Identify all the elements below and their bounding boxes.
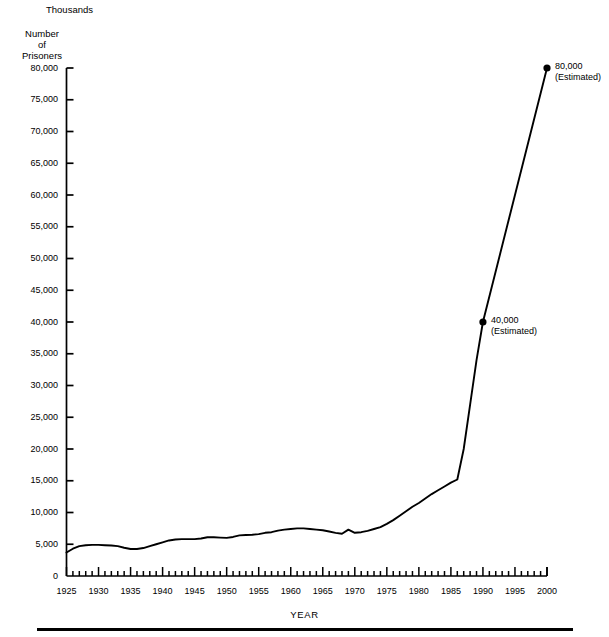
y-tick-label: 5,000 xyxy=(6,540,58,549)
y-axis-title-line-2: of xyxy=(16,39,68,50)
x-tick-label: 2000 xyxy=(527,587,567,596)
annotation-2000: 80,000(Estimated) xyxy=(555,61,601,83)
y-tick-label: 65,000 xyxy=(6,159,58,168)
y-axis-title-line-3: Prisoners xyxy=(16,50,68,61)
y-tick-label: 55,000 xyxy=(6,222,58,231)
data-point-marker-2000 xyxy=(543,64,550,71)
annotation-1990: 40,000(Estimated) xyxy=(491,315,537,337)
y-axis-title: Number of Prisoners xyxy=(16,28,68,61)
units-label: Thousands xyxy=(46,4,93,15)
y-tick-label: 20,000 xyxy=(6,445,58,454)
y-tick-label: 45,000 xyxy=(6,286,58,295)
y-tick-label: 75,000 xyxy=(6,95,58,104)
y-tick-label: 10,000 xyxy=(6,508,58,517)
y-tick-label: 60,000 xyxy=(6,191,58,200)
annotation-value: 80,000 xyxy=(555,61,601,72)
prisoners-line-chart: Thousands Number of Prisoners 05,00010,0… xyxy=(0,0,609,637)
annotation-qualifier: (Estimated) xyxy=(555,72,601,83)
footer-divider xyxy=(37,628,573,631)
y-tick-label: 0 xyxy=(6,572,58,581)
y-tick-label: 80,000 xyxy=(6,64,58,73)
y-tick-label: 70,000 xyxy=(6,127,58,136)
annotation-qualifier: (Estimated) xyxy=(491,326,537,337)
x-axis-caption: YEAR xyxy=(0,609,609,620)
y-tick-label: 15,000 xyxy=(6,476,58,485)
y-tick-label: 50,000 xyxy=(6,254,58,263)
annotation-value: 40,000 xyxy=(491,315,537,326)
data-series-line xyxy=(67,68,548,553)
y-tick-label: 30,000 xyxy=(6,381,58,390)
axes xyxy=(67,68,548,576)
y-tick-label: 35,000 xyxy=(6,349,58,358)
y-tick-label: 25,000 xyxy=(6,413,58,422)
y-axis-title-line-1: Number xyxy=(16,28,68,39)
data-point-marker-1990 xyxy=(479,318,486,325)
y-tick-label: 40,000 xyxy=(6,318,58,327)
